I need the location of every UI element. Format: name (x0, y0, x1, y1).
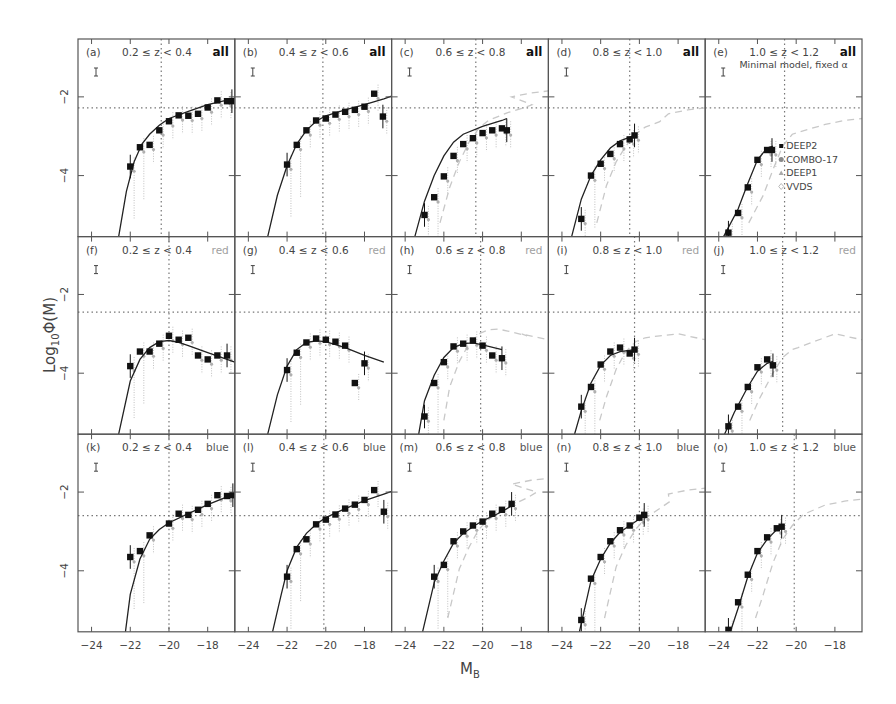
survey-point (191, 119, 194, 122)
survey-point (318, 124, 321, 127)
survey-point (465, 147, 468, 150)
panel-letter: (n) (556, 441, 571, 453)
deep2-point (607, 538, 613, 544)
survey-point (220, 359, 223, 362)
panel-sample-label: all (683, 45, 699, 59)
deep2-point (778, 524, 784, 530)
deep2-point (284, 161, 290, 167)
x-tick-label: −20 (471, 639, 493, 651)
panel-letter: (g) (243, 244, 258, 256)
y-tick-label: −4 (58, 365, 70, 381)
deep2-point (204, 501, 210, 507)
deep2-point (214, 492, 220, 498)
deep2-point (460, 528, 466, 534)
deep2-point (352, 501, 358, 507)
deep2-point (754, 364, 760, 370)
deep2-point (195, 507, 201, 513)
deep2-point (332, 338, 338, 344)
panel-letter: (e) (713, 46, 728, 58)
deep2-point (631, 132, 637, 138)
deep2-point (470, 135, 476, 141)
survey-point (338, 118, 341, 121)
survey-point (603, 560, 606, 563)
deep2-point (303, 127, 309, 133)
deep2-point (597, 361, 603, 367)
deep2-point (323, 337, 329, 343)
panel-letter: (j) (713, 244, 724, 256)
survey-point (133, 560, 136, 563)
panel-letter: (l) (243, 441, 254, 453)
typical-error-icon (564, 266, 568, 274)
panel-g: (g)0.4 ≤ z < 0.6red (235, 237, 392, 435)
deep2-point (175, 112, 181, 118)
survey-point (446, 179, 449, 182)
x-tick-label: −22 (746, 639, 768, 651)
survey-point (485, 525, 488, 528)
deep2-point (380, 113, 386, 119)
y-tick-label: −2 (58, 484, 70, 499)
survey-point (603, 368, 606, 371)
deep2-point (352, 380, 358, 386)
survey-point (504, 513, 507, 516)
x-tick-label: −18 (667, 639, 689, 651)
survey-point (465, 347, 468, 350)
survey-point (509, 133, 512, 136)
panel-frame (392, 434, 549, 632)
survey-point (504, 361, 507, 364)
panel-sample-label: all (369, 45, 385, 59)
survey-point (299, 148, 302, 151)
y-tick-label: −4 (58, 168, 70, 184)
reference-curve (597, 108, 705, 223)
survey-point (731, 429, 734, 432)
panel-redshift-range: 0.4 ≤ z < 0.6 (279, 441, 349, 453)
typical-error-icon (94, 463, 98, 471)
y-tick-label: −2 (58, 287, 70, 302)
survey-point (235, 498, 238, 501)
deep2-point (460, 141, 466, 147)
deep2-point (294, 142, 300, 148)
survey-point (750, 578, 753, 581)
survey-point (181, 118, 184, 121)
panel-m: (m)0.6 ≤ z < 0.8blue−24−22−20−18 (392, 434, 549, 651)
panel-letter: (o) (713, 441, 728, 453)
survey-point (740, 410, 743, 413)
deep2-point (185, 512, 191, 518)
deep2-point (323, 115, 329, 121)
deep2-point (735, 599, 741, 605)
survey-point (162, 347, 165, 350)
deep2-point (641, 512, 647, 518)
survey-point (584, 623, 587, 626)
survey-point (289, 373, 292, 376)
deep2-point (489, 127, 495, 133)
deep2-point (617, 527, 623, 533)
typical-error-icon (408, 463, 412, 471)
deep2-point (431, 194, 437, 200)
panel-sample-label: red (839, 244, 856, 256)
deep2-point (381, 509, 387, 515)
x-tick-label: −18 (510, 639, 532, 651)
survey-point (133, 170, 136, 173)
deep2-point (323, 516, 329, 522)
panel-redshift-range: 0.4 ≤ z < 0.6 (279, 244, 349, 256)
survey-point (603, 167, 606, 170)
deep2-point (313, 335, 319, 341)
panel-sample-label: all (212, 45, 228, 59)
survey-point (774, 153, 777, 156)
schechter-fit-curve (273, 491, 392, 632)
legend-entry-deep2: DEEP2 (779, 140, 817, 151)
panel-letter: (d) (556, 46, 571, 58)
survey-point (740, 605, 743, 608)
typical-error-icon (94, 68, 98, 76)
schechter-fit-curve (119, 98, 235, 237)
panel-f: (f)0.2 ≤ z < 0.4red−2−4 (58, 237, 235, 435)
x-tick-label: −22 (433, 639, 455, 651)
deep2-point (185, 335, 191, 341)
survey-point (367, 366, 370, 369)
panel-k: (k)0.2 ≤ z < 0.4blue−24−22−20−18−2−4 (58, 434, 238, 651)
panel-sample-label: red (682, 244, 699, 256)
typical-error-icon (564, 463, 568, 471)
deep2-point (470, 337, 476, 343)
survey-point (584, 410, 587, 413)
legend-entry-deep1: DEEP1 (779, 167, 818, 178)
survey-point (171, 124, 174, 127)
